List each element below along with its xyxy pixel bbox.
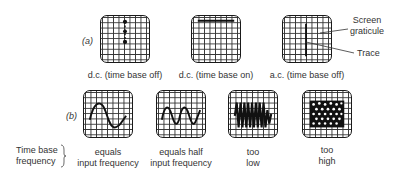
trace-sine-2-cycles bbox=[157, 91, 205, 137]
label-too-high: too high bbox=[287, 145, 367, 167]
row-a-tag: (a) bbox=[82, 36, 93, 46]
label-ac-timebase-off: a.c. (time base off) bbox=[267, 70, 347, 81]
label-too-low: too low bbox=[213, 147, 293, 169]
screen-equals-input-frequency bbox=[83, 90, 133, 138]
annotation-trace: Trace bbox=[357, 48, 380, 59]
screen-dc-timebase-on bbox=[191, 15, 241, 63]
trace-mesh-blur bbox=[303, 91, 351, 137]
side-label-time-base-frequency: Time base frequency bbox=[16, 145, 58, 167]
trace-sine-1-cycle bbox=[84, 91, 132, 137]
trace-horizontal-line bbox=[192, 16, 240, 62]
label-dc-timebase-on: d.c. (time base on) bbox=[176, 70, 256, 81]
row-b-tag: (b) bbox=[66, 111, 77, 121]
screen-too-low bbox=[228, 90, 278, 138]
screen-dc-timebase-off bbox=[100, 15, 150, 63]
screen-equals-half-input-frequency bbox=[156, 90, 206, 138]
screen-too-high bbox=[302, 90, 352, 138]
annotation-screen-graticule: Screen graticule bbox=[350, 15, 384, 37]
trace-vertical-dots bbox=[101, 16, 149, 62]
label-dc-timebase-off: d.c. (time base off) bbox=[85, 70, 165, 81]
trace-dense-sine bbox=[229, 91, 277, 137]
label-equals-half-input-frequency: equals half input frequency bbox=[141, 147, 221, 169]
brace-icon bbox=[60, 144, 68, 168]
label-equals-input-frequency: equals input frequency bbox=[68, 147, 148, 169]
